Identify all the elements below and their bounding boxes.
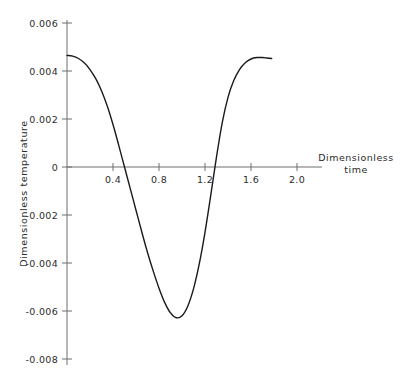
- y-tick-label: 0.006: [0, 18, 58, 29]
- x-tick-label: 0.8: [151, 174, 167, 185]
- x-axis-title-line2: time: [310, 164, 402, 176]
- y-tick-label: 0.002: [0, 114, 58, 125]
- chart-figure: 0.0060.0040.0020-0.002-0.004-0.006-0.008…: [0, 0, 406, 379]
- y-tick-label: -0.002: [0, 210, 58, 221]
- data-curve-dimensionless-temperature: [67, 55, 272, 317]
- plot-canvas: [0, 0, 406, 379]
- y-axis-title: Dimensionless temperature: [18, 94, 29, 294]
- y-tick-label: -0.008: [0, 354, 58, 365]
- y-tick-label: -0.006: [0, 306, 58, 317]
- x-axis-title-line1: Dimensionless: [310, 152, 402, 164]
- x-tick-label: 0.4: [105, 174, 121, 185]
- y-tick-label: -0.004: [0, 258, 58, 269]
- y-tick-label: 0.004: [0, 66, 58, 77]
- x-tick-label: 1.6: [243, 174, 259, 185]
- x-axis-title: Dimensionless time: [310, 152, 402, 176]
- y-tick-label: 0: [0, 162, 58, 173]
- x-tick-label: 2.0: [289, 174, 305, 185]
- x-tick-label: 1.2: [197, 174, 213, 185]
- axes-group: [67, 20, 322, 365]
